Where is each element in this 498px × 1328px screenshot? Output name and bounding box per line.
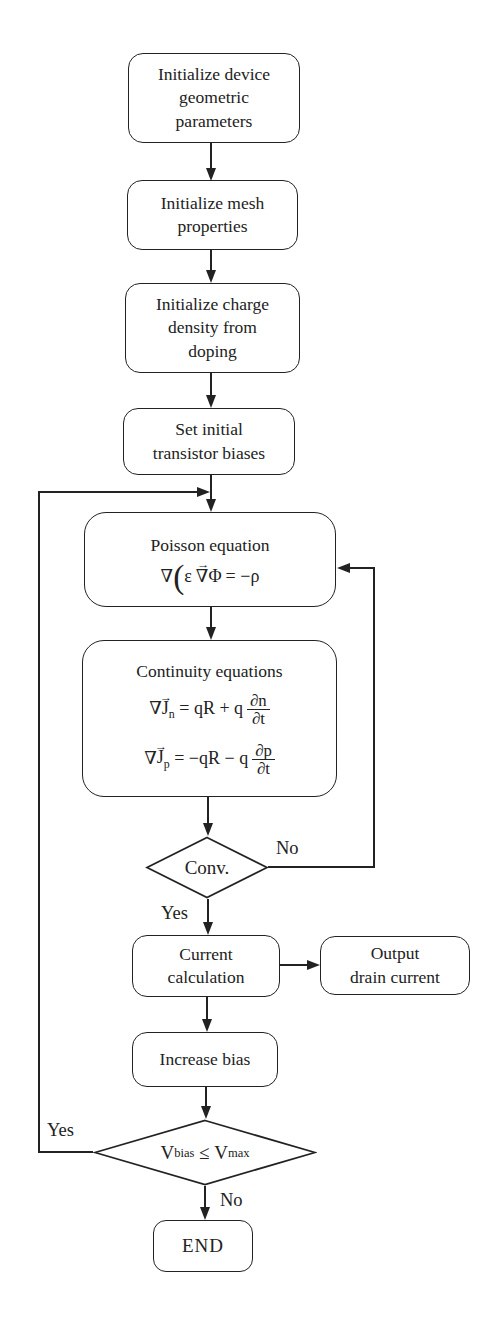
continuity-formula-p: ∇→Jp = −qR − q∂p∂t: [144, 742, 275, 777]
nabla-symbol: ∇: [161, 566, 174, 586]
node-label: END: [182, 1233, 224, 1258]
arrow-poisson-to-continuity: [210, 607, 212, 628]
arrow-charge-to-bias: [210, 373, 212, 396]
node-label: Initialize mesh properties: [161, 192, 265, 238]
node-output-drain-current: Output drain current: [320, 936, 470, 995]
vector-arrow: →: [197, 560, 209, 570]
equation-middle: = qR + q: [179, 698, 243, 718]
node-label: Increase bias: [160, 1048, 251, 1071]
vector-arrow: →: [160, 692, 172, 702]
subscript-p: p: [164, 757, 170, 771]
partial-fraction-p: ∂p∂t: [252, 742, 275, 777]
arrowhead-down: [203, 823, 213, 836]
vmax-symbol: V: [214, 1142, 228, 1164]
edge-label-conv-yes: Yes: [161, 903, 188, 924]
node-label: Set initial transistor biases: [153, 418, 265, 464]
rho-term: −ρ: [240, 566, 259, 586]
leq-operator: ≤: [199, 1142, 209, 1164]
node-label: Initialize charge density from doping: [156, 293, 269, 362]
arrowhead-right: [307, 960, 320, 970]
equals-sign: =: [226, 566, 236, 586]
arrow-increase-to-vbias: [205, 1087, 207, 1107]
loop-yes-horizontal-top: [38, 491, 198, 493]
poisson-title: Poisson equation: [150, 534, 269, 557]
poisson-formula: ∇(ε→∇Φ= −ρ: [161, 567, 260, 585]
arrow-vbias-to-end: [204, 1186, 206, 1208]
phi-symbol: Φ: [208, 566, 221, 586]
continuity-formula-n: ∇→Jn = qR + q∂n∂t: [149, 692, 269, 727]
node-increase-bias: Increase bias: [132, 1032, 278, 1087]
arrowhead-down: [206, 395, 216, 408]
arrowhead-down: [202, 1019, 212, 1032]
j-vector: →J: [157, 748, 164, 766]
arrowhead-down: [201, 1106, 211, 1119]
arrowhead-down: [203, 922, 213, 935]
node-set-initial-biases: Set initial transistor biases: [123, 408, 295, 475]
decision-vbias-vmax: Vbias ≤ Vmax: [93, 1119, 317, 1186]
equation-middle: = −qR − q: [174, 747, 248, 767]
arrowhead-down: [206, 168, 216, 181]
j-vector: →J: [162, 699, 169, 717]
continuity-title: Continuity equations: [136, 660, 282, 683]
node-label: Output drain current: [350, 942, 440, 988]
subscript-n: n: [169, 708, 175, 722]
node-continuity-equations: Continuity equations ∇→Jn = qR + q∂n∂t ∇…: [82, 640, 337, 797]
node-poisson-equation: Poisson equation ∇(ε→∇Φ= −ρ: [84, 512, 336, 607]
node-initialize-mesh-properties: Initialize mesh properties: [127, 180, 298, 250]
arrowhead-right: [197, 487, 210, 497]
node-label: Current calculation: [168, 943, 245, 989]
loop-no-vertical: [373, 567, 375, 868]
loop-no-horizontal-top: [350, 567, 375, 569]
left-paren: (: [173, 557, 184, 594]
loop-no-horizontal-bottom: [268, 866, 375, 868]
node-label: Initialize device geometric parameters: [158, 63, 270, 132]
node-current-calculation: Current calculation: [132, 935, 280, 997]
arrow-current-to-increase: [206, 997, 208, 1020]
decision-convergence: Conv.: [145, 836, 269, 899]
decision-label: Conv.: [145, 836, 269, 899]
edge-label-vbias-yes: Yes: [47, 1120, 74, 1141]
node-end: END: [153, 1220, 253, 1272]
epsilon-symbol: ε: [184, 566, 192, 586]
arrowhead-left: [337, 563, 350, 573]
node-initialize-charge-density: Initialize charge density from doping: [125, 283, 300, 373]
arrow-current-to-output: [280, 964, 308, 966]
edge-label-vbias-no: No: [220, 1190, 243, 1211]
arrow-conv-to-current: [207, 899, 209, 923]
loop-yes-horizontal-bottom: [38, 1151, 93, 1153]
arrow-device-to-mesh: [210, 143, 212, 171]
arrow-bias-to-poisson: [210, 475, 212, 500]
arrow-continuity-to-conv: [207, 797, 209, 824]
arrowhead-down: [206, 270, 216, 283]
flowchart-canvas: Initialize device geometric parameters I…: [0, 0, 498, 1328]
loop-yes-vertical: [38, 491, 40, 1153]
vbias-symbol: V: [160, 1142, 174, 1164]
partial-fraction-n: ∂n∂t: [247, 692, 270, 727]
arrowhead-down: [206, 627, 216, 640]
node-initialize-device-parameters: Initialize device geometric parameters: [128, 53, 300, 143]
arrow-mesh-to-charge: [210, 250, 212, 271]
edge-label-conv-no: No: [276, 838, 299, 859]
arrowhead-down: [206, 499, 216, 512]
vector-arrow: →: [155, 742, 167, 752]
decision-label: Vbias ≤ Vmax: [93, 1119, 317, 1186]
nabla-vector: →∇: [196, 567, 209, 585]
arrowhead-down: [200, 1207, 210, 1220]
